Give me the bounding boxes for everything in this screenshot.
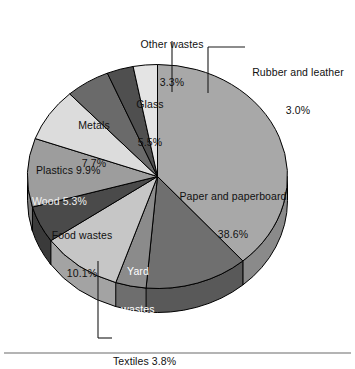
label-rubber-and-leather: Rubber and leather 3.0% xyxy=(243,41,353,141)
label-yard-wastes-value: 12.8% xyxy=(109,340,167,353)
label-paper-and-paperboard-value: 38.6% xyxy=(168,228,298,241)
label-paper-and-paperboard-name: Paper and paperboard xyxy=(168,190,298,203)
label-paper-and-paperboard: Paper and paperboard 38.6% xyxy=(168,165,298,265)
label-glass-name: Glass xyxy=(122,98,178,111)
label-yard-wastes-line2: wastes xyxy=(109,303,167,316)
label-rubber-and-leather-value: 3.0% xyxy=(243,104,353,117)
label-rubber-and-leather-name: Rubber and leather xyxy=(243,66,353,79)
label-metals-name: Metals xyxy=(66,119,122,132)
label-yard-wastes: Yard wastes 12.8% xyxy=(109,240,167,369)
label-other-wastes-name: Other wastes xyxy=(116,38,228,51)
label-yard-wastes-line1: Yard xyxy=(109,265,167,278)
